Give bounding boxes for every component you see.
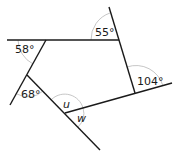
angle-label-u: u: [63, 98, 70, 111]
angle-label-58: 58°: [15, 43, 35, 56]
angle-label-68: 68°: [21, 88, 41, 101]
geometry-diagram: 58° 55° 104° 68° u w: [0, 0, 178, 154]
upper-right-line: [109, 7, 135, 93]
diagonal-line: [27, 75, 100, 150]
angle-labels: 58° 55° 104° 68° u w: [15, 26, 164, 125]
angle-label-55: 55°: [95, 26, 115, 39]
angle-label-104: 104°: [137, 75, 164, 88]
angle-arcs: [17, 13, 163, 127]
angle-label-w: w: [77, 112, 86, 125]
